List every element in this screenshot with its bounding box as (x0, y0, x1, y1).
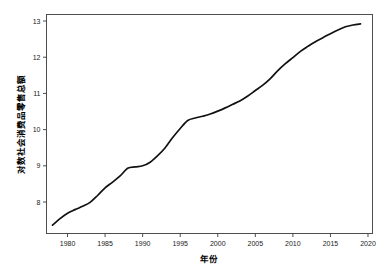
y-tick-label: 10 (33, 126, 41, 133)
y-axis-title: 对数社会消费品零售总额 (16, 75, 26, 174)
x-tick-label: 2000 (210, 240, 226, 247)
x-tick-label: 2010 (285, 240, 301, 247)
x-tick-label: 2015 (323, 240, 339, 247)
y-tick-label: 8 (37, 199, 41, 206)
x-tick-label: 1990 (135, 240, 151, 247)
x-tick-label: 2005 (248, 240, 264, 247)
line-chart: 198019851990199520002005201020152020 891… (0, 0, 385, 273)
y-tick-label: 11 (33, 90, 40, 97)
y-tick-label: 9 (37, 162, 41, 169)
chart-background (0, 0, 385, 273)
x-axis-title: 年份 (200, 254, 218, 264)
chart-figure: 198019851990199520002005201020152020 891… (0, 0, 385, 273)
x-tick-label: 1995 (172, 240, 188, 247)
y-tick-label: 13 (33, 18, 41, 25)
x-tick-label: 1980 (60, 240, 76, 247)
x-tick-label: 2020 (360, 240, 376, 247)
y-tick-label: 12 (33, 54, 41, 61)
x-tick-label: 1985 (97, 240, 113, 247)
